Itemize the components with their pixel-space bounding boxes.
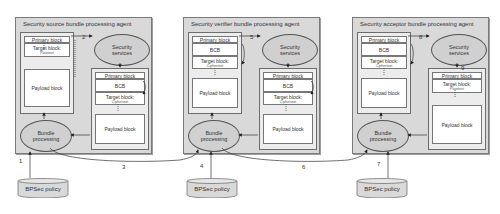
policy-step-label: 4	[200, 163, 203, 169]
bpsec-policy-db: BPSec policy	[186, 178, 238, 198]
transfer-step-label: 3	[122, 164, 125, 170]
policy-label: BPSec policy	[186, 186, 238, 192]
policy-step-label: 1	[19, 158, 22, 164]
transfer-step-label: 6	[302, 164, 305, 170]
bpsec-policy-db: BPSec policy	[356, 178, 408, 198]
connectors	[0, 0, 500, 214]
policy-label: BPSec policy	[17, 186, 69, 192]
policy-step-label: 7	[377, 161, 380, 167]
bpsec-policy-db: BPSec policy	[17, 178, 69, 198]
policy-label: BPSec policy	[356, 186, 408, 192]
